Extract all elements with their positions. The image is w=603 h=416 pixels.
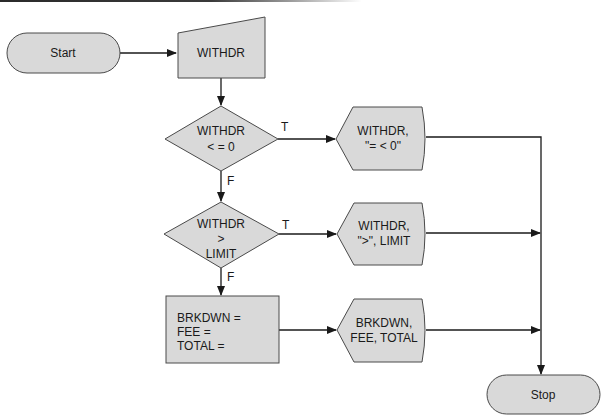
decision1-line2: < = 0 [207,140,235,154]
display2-line2: ">", LIMIT [358,234,412,248]
decision2-true-label: T [282,218,290,232]
process-line2: FEE = [177,325,211,339]
display1-line2: "= < 0" [365,139,401,153]
start-node: Start [7,33,120,73]
decision2-node: WITHDR > LIMIT [164,202,279,268]
flowchart-canvas: Start WITHDR WITHDR < = 0 T F WITHDR, "=… [0,0,603,416]
decision2-line1: WITHDR [197,217,245,231]
decision2-line3: LIMIT [206,247,237,261]
edge-display1-to-stop [426,137,541,374]
process-line1: BRKDWN = [177,311,241,325]
start-label: Start [50,46,76,60]
stop-label: Stop [531,388,556,402]
display2-node: WITHDR, ">", LIMIT [337,203,425,265]
decision2-false-label: F [227,270,234,284]
display1-line1: WITHDR, [357,124,408,138]
display1-node: WITHDR, "= < 0" [336,107,425,170]
display3-line2: FEE, TOTAL [350,331,418,345]
decision1-false-label: F [227,174,234,188]
process-node: BRKDWN = FEE = TOTAL = [166,296,279,363]
display2-line1: WITHDR, [358,219,409,233]
process-line3: TOTAL = [177,339,224,353]
decision1-line1: WITHDR [197,124,245,138]
decision1-true-label: T [281,120,289,134]
display3-line1: BRKDWN, [356,316,413,330]
decision1-node: WITHDR < = 0 [165,106,278,171]
display3-node: BRKDWN, FEE, TOTAL [337,299,425,362]
input-label: WITHDR [197,46,245,60]
decision2-line2: > [217,232,224,246]
input-node: WITHDR [178,17,265,78]
stop-node: Stop [487,375,600,414]
